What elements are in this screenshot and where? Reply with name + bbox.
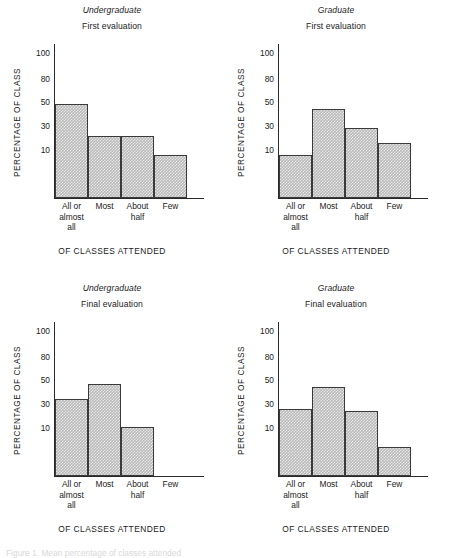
y-axis-label: PERCENTAGE OF CLASS: [13, 58, 22, 188]
panel-titles: Graduate First evaluation: [224, 4, 448, 32]
x-axis-line: [278, 198, 428, 199]
y-tick-100: 100: [36, 48, 54, 58]
x-axis-line: [54, 198, 204, 199]
y-tick-10: 10: [41, 423, 54, 433]
y-tick-10: 10: [265, 423, 278, 433]
panel-titles: Graduate Final evaluation: [224, 282, 448, 310]
panel-evaluation-title: First evaluation: [0, 20, 224, 32]
plot-area: 10080503010: [278, 44, 428, 199]
x-axis-line: [278, 476, 428, 477]
x-category-3: Few: [149, 201, 193, 212]
x-category-labels: All oralmostallMostAbouthalfFew: [55, 479, 205, 513]
panel-titles: Undergraduate Final evaluation: [0, 282, 224, 310]
y-tick-10: 10: [41, 145, 54, 155]
y-tick-30: 30: [265, 399, 278, 409]
bar-2: [121, 427, 154, 476]
y-axis-label: PERCENTAGE OF CLASS: [13, 336, 22, 466]
bar-2: [345, 411, 378, 476]
x-axis-label: OF CLASSES ATTENDED: [224, 246, 448, 256]
x-category-labels: All oralmostallMostAbouthalfFew: [279, 479, 429, 513]
y-tick-100: 100: [260, 48, 278, 58]
figure-caption: Figure 1. Mean percentage of classes att…: [6, 548, 446, 558]
y-tick-30: 30: [41, 121, 54, 131]
x-category-3: Few: [373, 479, 417, 490]
y-tick-50: 50: [265, 97, 278, 107]
bar-group: [55, 322, 204, 476]
y-tick-50: 50: [41, 375, 54, 385]
panel-group-title: Undergraduate: [0, 282, 224, 294]
x-category-labels: All oralmostallMostAbouthalfFew: [279, 201, 429, 235]
bar-1: [88, 384, 121, 476]
bar-3: [378, 143, 411, 198]
y-tick-100: 100: [36, 326, 54, 336]
y-tick-30: 30: [41, 399, 54, 409]
bar-group: [279, 44, 428, 198]
chart-panel-undergraduate-first: Undergraduate First evaluation PERCENTAG…: [0, 0, 224, 277]
bar-0: [55, 104, 88, 198]
chart-panel-graduate-first: Graduate First evaluation PERCENTAGE OF …: [224, 0, 448, 277]
x-axis-label: OF CLASSES ATTENDED: [0, 524, 224, 534]
bar-1: [312, 109, 345, 198]
chart-panel-undergraduate-final: Undergraduate Final evaluation PERCENTAG…: [0, 278, 224, 555]
x-category-3: Few: [149, 479, 193, 490]
x-axis-label: OF CLASSES ATTENDED: [224, 524, 448, 534]
panel-group-title: Graduate: [224, 4, 448, 16]
bar-0: [279, 409, 312, 476]
plot-area: 10080503010: [278, 322, 428, 477]
plot-area: 10080503010: [54, 44, 204, 199]
bar-2: [121, 136, 154, 198]
bar-3: [154, 155, 187, 198]
y-tick-50: 50: [265, 375, 278, 385]
panel-evaluation-title: First evaluation: [224, 20, 448, 32]
bar-2: [345, 128, 378, 198]
panel-evaluation-title: Final evaluation: [0, 298, 224, 310]
y-axis-label: PERCENTAGE OF CLASS: [237, 58, 246, 188]
y-tick-10: 10: [265, 145, 278, 155]
y-tick-50: 50: [41, 97, 54, 107]
x-category-3: Few: [373, 201, 417, 212]
y-tick-80: 80: [265, 352, 278, 362]
panel-group-title: Undergraduate: [0, 4, 224, 16]
panel-group-title: Graduate: [224, 282, 448, 294]
x-category-labels: All oralmostallMostAbouthalfFew: [55, 201, 205, 235]
y-tick-80: 80: [265, 74, 278, 84]
y-tick-100: 100: [260, 326, 278, 336]
bar-group: [55, 44, 204, 198]
y-tick-30: 30: [265, 121, 278, 131]
x-axis-label: OF CLASSES ATTENDED: [0, 246, 224, 256]
panel-evaluation-title: Final evaluation: [224, 298, 448, 310]
panel-titles: Undergraduate First evaluation: [0, 4, 224, 32]
bar-group: [279, 322, 428, 476]
bar-1: [312, 387, 345, 476]
bar-1: [88, 136, 121, 198]
y-axis-label: PERCENTAGE OF CLASS: [237, 336, 246, 466]
bar-3: [378, 447, 411, 476]
bar-0: [279, 155, 312, 198]
chart-panel-graduate-final: Graduate Final evaluation PERCENTAGE OF …: [224, 278, 448, 555]
plot-area: 10080503010: [54, 322, 204, 477]
bar-0: [55, 399, 88, 476]
x-axis-line: [54, 476, 204, 477]
y-tick-80: 80: [41, 74, 54, 84]
y-tick-80: 80: [41, 352, 54, 362]
